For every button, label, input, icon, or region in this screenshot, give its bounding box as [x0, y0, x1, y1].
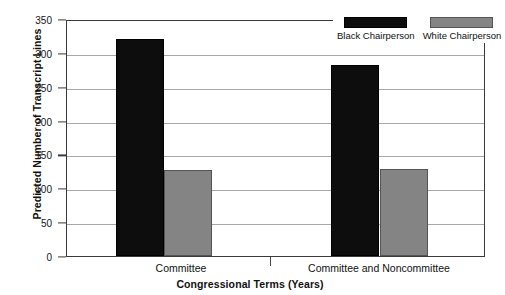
- x-group-label: Committee: [71, 262, 291, 274]
- legend-label-black-chairperson: Black Chairperson: [337, 30, 415, 41]
- y-tick-label: 200: [8, 116, 52, 127]
- legend-swatch-black-chairperson: [344, 17, 407, 28]
- y-tick-mark: [58, 19, 66, 20]
- y-tick-mark: [58, 155, 66, 156]
- bar: [380, 169, 428, 256]
- legend-item: Black Chairperson: [337, 17, 415, 41]
- y-tick-mark: [58, 121, 66, 122]
- bar: [331, 65, 379, 256]
- legend-swatch-white-chairperson: [430, 17, 493, 28]
- legend-item: White Chairperson: [423, 17, 502, 41]
- y-tick-mark: [58, 256, 66, 257]
- bar: [164, 170, 212, 256]
- chart-legend: Black Chairperson White Chairperson: [333, 14, 505, 43]
- y-tick-label: 50: [8, 218, 52, 229]
- x-group-label: Committee and Noncommittee: [269, 262, 489, 274]
- y-tick-label: 0: [8, 252, 52, 263]
- y-tick-mark: [58, 87, 66, 88]
- y-tick-label: 350: [8, 15, 52, 26]
- y-tick-mark: [58, 53, 66, 54]
- bar: [116, 39, 164, 256]
- y-tick-label: 250: [8, 82, 52, 93]
- legend-label-white-chairperson: White Chairperson: [423, 30, 502, 41]
- y-tick-label: 300: [8, 48, 52, 59]
- y-tick-mark: [58, 223, 66, 224]
- y-tick-label: 100: [8, 184, 52, 195]
- y-tick-mark: [58, 189, 66, 190]
- y-tick-label: 150: [8, 150, 52, 161]
- plot-area: [66, 20, 485, 257]
- x-axis-title: Congressional Terms (Years): [0, 278, 500, 290]
